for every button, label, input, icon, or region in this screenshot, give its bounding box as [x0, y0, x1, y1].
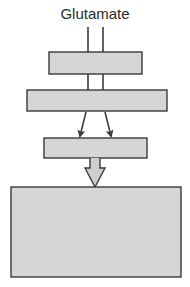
arrow-left [80, 112, 86, 136]
arrow-right [105, 112, 111, 136]
box-1 [49, 52, 142, 74]
hollow-arrow [85, 158, 105, 187]
box-3 [44, 138, 147, 158]
box-4 [11, 187, 181, 277]
box-2 [27, 90, 167, 111]
diagram-canvas [0, 0, 190, 287]
